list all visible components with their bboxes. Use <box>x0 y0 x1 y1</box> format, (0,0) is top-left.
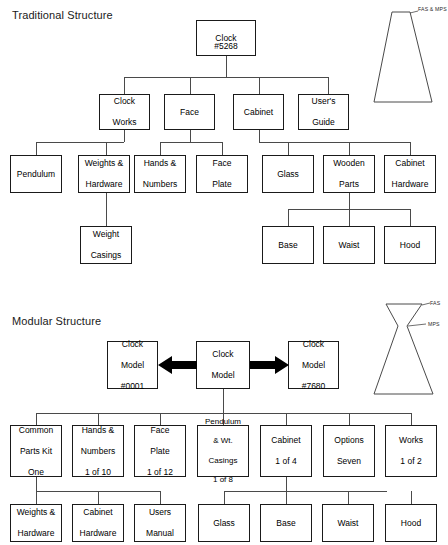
connector-to-options-seven <box>349 413 350 425</box>
node-base[interactable]: Base <box>262 226 314 264</box>
connector-to-waist-mod <box>348 491 349 504</box>
node-hands-numbers-1of10[interactable]: Hands & Numbers 1 of 10 <box>72 425 124 477</box>
node-users-manual[interactable]: Users Manual <box>134 504 186 542</box>
arrow-left-icon <box>158 356 197 374</box>
connector-to-cabinet <box>259 77 260 94</box>
connector-to-cabinet-hardware <box>410 142 411 155</box>
a-shape-triangle <box>370 8 448 108</box>
connector-to-hood-mod <box>411 491 412 504</box>
modular-structure-title: Modular Structure <box>12 315 101 327</box>
node-waist[interactable]: Waist <box>323 226 375 264</box>
connector-to-cabinet-mod <box>286 413 287 425</box>
connector-to-face <box>190 77 191 94</box>
node-clock-model-0001[interactable]: Clock Model #0001 <box>107 341 158 389</box>
node-pendulum-wt-casings-1of8[interactable]: Pendulum & Wt. Casings 1 of 8 <box>197 425 249 477</box>
fas-mps-label: FAS & MPS <box>418 6 447 12</box>
node-face-plate-1of12[interactable]: Face Plate 1 of 12 <box>134 425 186 477</box>
connector-face-stem <box>190 130 191 142</box>
connector-to-clock-works <box>124 77 125 94</box>
connector-cabinet4-bus <box>224 491 387 492</box>
node-cabinet-hardware-mod[interactable]: Cabinet Hardware <box>72 504 124 542</box>
node-face[interactable]: Face <box>164 94 215 130</box>
connector-cabinet-stem <box>259 130 260 142</box>
traditional-structure-title: Traditional Structure <box>12 9 113 21</box>
node-common-parts-kit-one[interactable]: Common Parts Kit One <box>10 425 62 477</box>
node-clock-root-sub: #5268 <box>196 20 256 56</box>
connector-commonkit-stem <box>36 477 37 491</box>
connector-to-works <box>411 413 412 425</box>
connector-to-common-parts-kit <box>36 413 37 425</box>
node-hands-numbers[interactable]: Hands & Numbers <box>134 155 186 193</box>
node-base-mod[interactable]: Base <box>260 504 312 542</box>
connector-cabinet-bus-left <box>259 142 289 143</box>
node-glass-mod[interactable]: Glass <box>198 504 250 542</box>
connector-to-wooden-parts <box>349 142 350 155</box>
node-hood-mod[interactable]: Hood <box>385 504 437 542</box>
node-glass[interactable]: Glass <box>262 155 314 193</box>
node-users-guide[interactable]: User's Guide <box>298 94 349 130</box>
node-wooden-parts[interactable]: Wooden Parts <box>323 155 375 193</box>
connector-to-hood <box>410 209 411 226</box>
connector-to-glass-mod <box>224 491 225 504</box>
connector-to-weights-hardware-mod <box>36 491 37 504</box>
mps-label: MPS <box>428 321 440 327</box>
connector-root-stem <box>226 56 227 77</box>
node-cabinet[interactable]: Cabinet <box>233 94 284 130</box>
connector-to-cabinet-hardware-mod <box>98 491 99 504</box>
connector-to-base <box>288 209 289 226</box>
node-clock-model[interactable]: Clock Model <box>196 341 250 389</box>
connector-to-waist <box>349 209 350 226</box>
fas-label: FAS <box>430 300 440 306</box>
node-clock-model-7680[interactable]: Clock Model #7680 <box>288 341 339 389</box>
node-works-1of2[interactable]: Works 1 of 2 <box>385 425 437 477</box>
connector-to-glass <box>288 142 289 155</box>
connector-to-hands-numbers-mod <box>98 413 99 425</box>
connector-clockworks-bus <box>36 142 124 143</box>
node-options-seven[interactable]: Options Seven <box>323 425 375 477</box>
node-weights-hardware-mod[interactable]: Weights & Hardware <box>10 504 62 542</box>
connector-cabinet4-stem <box>286 477 287 491</box>
diagram-canvas: Traditional Structure FAS & MPS Clock #5… <box>0 0 448 545</box>
connector-face-bus <box>160 142 222 143</box>
connector-to-weights-hardware <box>106 142 107 155</box>
node-waist-mod[interactable]: Waist <box>322 504 374 542</box>
connector-to-face-plate-mod <box>160 413 161 425</box>
connector-to-base-mod <box>286 491 287 504</box>
node-weights-hardware[interactable]: Weights & Hardware <box>78 155 130 193</box>
connector-woodenparts-stem <box>349 193 350 209</box>
hourglass-bowtie-shape <box>370 300 448 400</box>
node-cabinet-hardware[interactable]: Cabinet Hardware <box>384 155 436 193</box>
node-face-plate[interactable]: Face Plate <box>196 155 248 193</box>
connector-level2-bus <box>124 77 328 78</box>
connector-to-weight-casings <box>106 193 107 226</box>
node-clock-works[interactable]: Clock Works <box>99 94 150 130</box>
connector-clockworks-stem <box>124 130 125 142</box>
arrow-right-icon <box>250 356 289 374</box>
connector-to-users-manual <box>160 491 161 504</box>
connector-to-pendulum <box>36 142 37 155</box>
connector-to-face-plate <box>222 142 223 155</box>
node-hood[interactable]: Hood <box>384 226 436 264</box>
node-cabinet-1of4[interactable]: Cabinet 1 of 4 <box>260 425 312 477</box>
connector-to-hands-numbers <box>160 142 161 155</box>
connector-to-users-guide <box>328 77 329 94</box>
node-weight-casings[interactable]: Weight Casings <box>80 226 132 264</box>
connector-clockmodel-stem <box>223 389 224 413</box>
node-pendulum[interactable]: Pendulum <box>10 155 62 193</box>
